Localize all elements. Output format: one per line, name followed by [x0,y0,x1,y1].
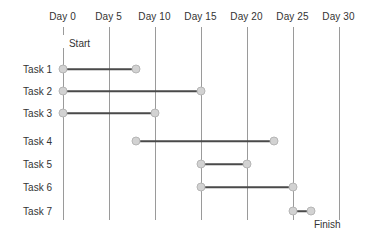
task-6-end-marker[interactable] [288,183,297,192]
gantt-chart: Day 0Day 5Day 10Day 15Day 20Day 25Day 30… [0,0,371,240]
task-7-end-marker[interactable] [306,207,315,216]
task-5-start-marker[interactable] [196,160,205,169]
axis-tick-label-day-20: Day 20 [230,11,262,22]
axis-tick-label-day-25: Day 25 [276,11,308,22]
task-2-end-marker[interactable] [196,87,205,96]
task-label-1: Task 1 [23,64,52,75]
gridline-day-10 [155,27,156,220]
start-milestone-label: Start [69,38,90,49]
gridline-day-5 [109,27,110,220]
gridline-day-30 [339,27,340,220]
task-bar-5[interactable] [201,163,247,165]
task-bar-3[interactable] [63,112,155,114]
axis-tick-label-day-30: Day 30 [322,11,354,22]
task-label-4: Task 4 [23,136,52,147]
axis-tick-label-day-0: Day 0 [49,11,76,22]
task-label-5: Task 5 [23,159,52,170]
task-label-2: Task 2 [23,86,52,97]
task-7-start-marker[interactable] [288,207,297,216]
task-label-3: Task 3 [23,108,52,119]
task-label-7: Task 7 [23,206,52,217]
gridline-day-20 [247,27,248,220]
task-1-end-marker[interactable] [132,65,141,74]
task-3-start-marker[interactable] [58,109,67,118]
task-bar-1[interactable] [63,68,137,70]
axis-tick-label-day-15: Day 15 [184,11,216,22]
task-bar-2[interactable] [63,90,201,92]
task-4-start-marker[interactable] [132,137,141,146]
gridline-day-0-tick [63,27,64,35]
task-3-end-marker[interactable] [150,109,159,118]
finish-milestone-label: Finish [314,219,341,230]
axis-tick-label-day-5: Day 5 [95,11,122,22]
task-5-end-marker[interactable] [242,160,251,169]
task-4-end-marker[interactable] [270,137,279,146]
task-1-start-marker[interactable] [58,65,67,74]
task-2-start-marker[interactable] [58,87,67,96]
task-label-6: Task 6 [23,182,52,193]
task-6-start-marker[interactable] [196,183,205,192]
axis-tick-label-day-10: Day 10 [138,11,170,22]
task-bar-6[interactable] [201,186,293,188]
gridline-day-0 [63,48,64,220]
task-bar-4[interactable] [136,140,274,142]
